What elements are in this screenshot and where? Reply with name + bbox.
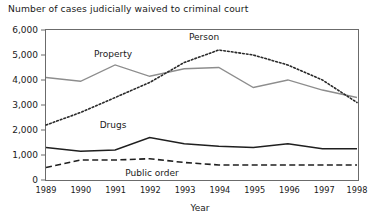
x-tick-label-1998: 1998: [347, 185, 368, 195]
x-tick-label-1989: 1989: [36, 185, 57, 195]
x-axis-title: Year: [189, 203, 209, 213]
series-line-public-order: [46, 159, 357, 168]
series-label-drugs: Drugs: [100, 120, 127, 130]
y-tick-label-3000: 3,000: [12, 100, 38, 110]
y-axis-tick-labels: 0 1,000 2,000 3,000 4,000 5,000 6,000: [12, 25, 38, 185]
y-tick-label-0: 0: [32, 175, 38, 185]
x-axis-tick-labels: 1989 1990 1991 1992 1993 1994 1995 1996 …: [36, 185, 368, 195]
x-tick-label-1993: 1993: [175, 185, 196, 195]
y-tick-label-4000: 4,000: [12, 75, 38, 85]
series-lines: [46, 50, 357, 168]
series-label-public-order: Public order: [125, 168, 179, 178]
x-tick-label-1994: 1994: [209, 185, 230, 195]
y-axis-tick-marks: [41, 30, 45, 180]
series-label-person: Person: [189, 32, 219, 42]
series-line-drugs: [46, 138, 357, 152]
x-tick-label-1991: 1991: [105, 185, 126, 195]
plot-frame: [46, 30, 359, 181]
y-tick-label-6000: 6,000: [12, 25, 38, 35]
line-chart-plot: 0 1,000 2,000 3,000 4,000 5,000 6,000 Pe…: [0, 0, 377, 219]
y-tick-label-2000: 2,000: [12, 125, 38, 135]
x-tick-label-1995: 1995: [244, 185, 265, 195]
x-tick-label-1992: 1992: [140, 185, 161, 195]
y-tick-label-5000: 5,000: [12, 50, 38, 60]
chart-container: Number of cases judicially waived to cri…: [0, 0, 377, 219]
series-label-property: Property: [94, 49, 133, 59]
y-tick-label-1000: 1,000: [12, 150, 38, 160]
series-line-person: [46, 50, 357, 125]
x-tick-label-1997: 1997: [314, 185, 335, 195]
x-tick-label-1996: 1996: [279, 185, 300, 195]
series-annotations: Person Property Drugs Public order: [94, 32, 219, 178]
series-line-property: [46, 65, 357, 98]
x-tick-label-1990: 1990: [70, 185, 91, 195]
